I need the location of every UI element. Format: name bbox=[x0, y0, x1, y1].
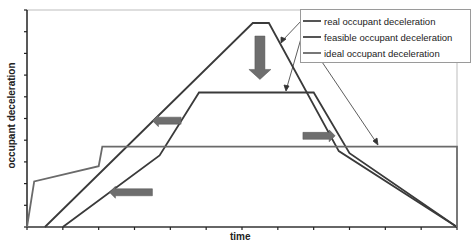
legend: real occupant deceleration feasible occu… bbox=[300, 9, 471, 63]
arrow-right-icon bbox=[303, 130, 335, 142]
series-ideal bbox=[27, 147, 457, 227]
arrow-left-icon bbox=[152, 115, 181, 127]
legend-label-feasible: feasible occupant deceleration bbox=[324, 32, 452, 43]
legend-item-feasible: feasible occupant deceleration bbox=[303, 30, 452, 44]
y-axis-label: occupant deceleration bbox=[6, 61, 17, 171]
y-axis bbox=[24, 10, 27, 227]
legend-swatch-real bbox=[303, 20, 321, 22]
arrow-down-icon bbox=[249, 36, 271, 79]
x-axis-label: time bbox=[230, 231, 251, 242]
legend-label-real: real occupant deceleration bbox=[324, 16, 435, 27]
legend-label-ideal: ideal occupant deceleration bbox=[324, 48, 440, 59]
legend-swatch-ideal bbox=[303, 52, 321, 54]
series-feasible bbox=[63, 93, 457, 228]
legend-item-ideal: ideal occupant deceleration bbox=[303, 46, 440, 60]
x-axis bbox=[27, 227, 457, 230]
legend-swatch-feasible bbox=[303, 36, 321, 38]
legend-item-real: real occupant deceleration bbox=[303, 14, 435, 28]
